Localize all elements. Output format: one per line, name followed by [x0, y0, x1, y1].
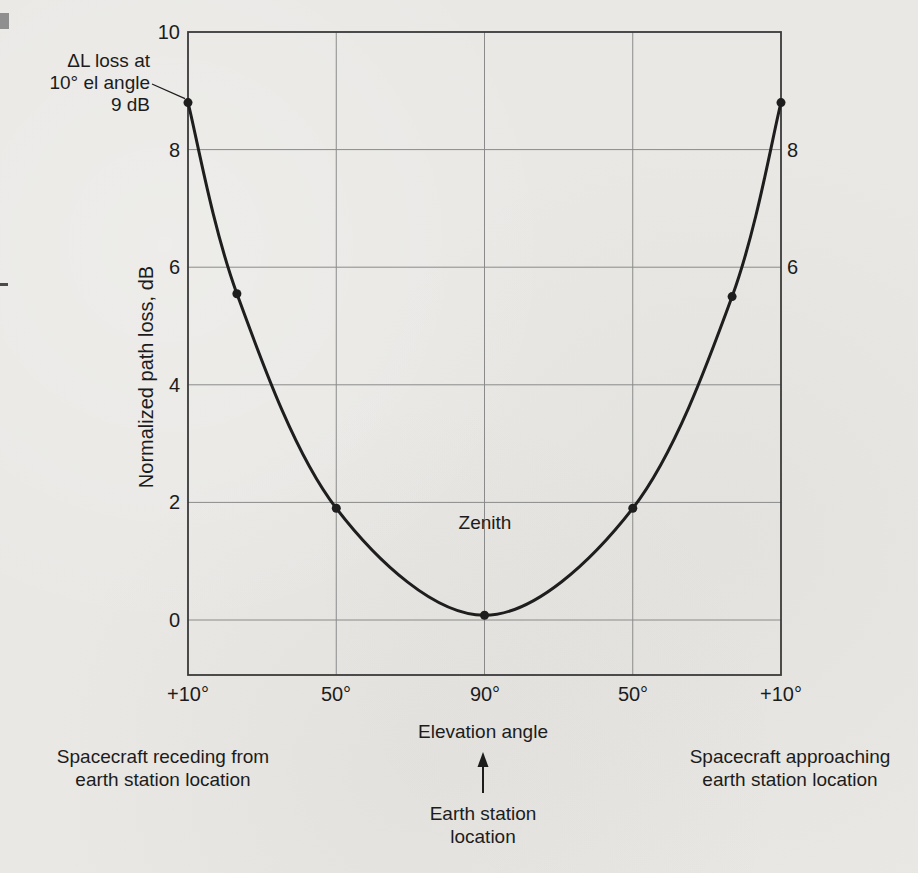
- earth-station-location-label: Earth station location: [383, 802, 583, 848]
- receding-line-2: earth station location: [23, 768, 303, 791]
- data-point-marker: [480, 611, 489, 620]
- scanned-figure-page: ΔL loss at 10° el angle 9 dB Normalized …: [0, 0, 918, 873]
- x-axis-tick-label: +10°: [741, 682, 821, 706]
- spacecraft-receding-label: Spacecraft receding from earth station l…: [23, 745, 303, 791]
- x-axis-tick-label: 50°: [296, 682, 376, 706]
- earth-station-line-1: Earth station: [383, 802, 583, 825]
- delta-l-annotation: ΔL loss at 10° el angle 9 dB: [18, 50, 150, 116]
- x-axis-tick-label: +10°: [148, 682, 228, 706]
- y-axis-tick-label-left: 0: [128, 608, 180, 632]
- data-point-marker: [332, 504, 341, 513]
- earth-station-line-2: location: [383, 825, 583, 848]
- approaching-line-1: Spacecraft approaching: [650, 745, 918, 768]
- zenith-label: Zenith: [425, 512, 545, 534]
- data-point-marker: [777, 98, 786, 107]
- annotation-line-2: 10° el angle: [18, 72, 150, 94]
- y-axis-tick-label-right: 6: [787, 255, 827, 279]
- data-point-marker: [628, 504, 637, 513]
- x-axis-tick-label: 50°: [593, 682, 673, 706]
- annotation-line-3: 9 dB: [18, 94, 150, 116]
- approaching-line-2: earth station location: [650, 768, 918, 791]
- annotation-line-1: ΔL loss at: [18, 50, 150, 72]
- y-axis-tick-label-right: 8: [787, 138, 827, 162]
- spacecraft-approaching-label: Spacecraft approaching earth station loc…: [650, 745, 918, 791]
- data-point-marker: [728, 292, 737, 301]
- data-point-marker: [232, 289, 241, 298]
- y-axis-tick-label-left: 2: [128, 490, 180, 514]
- y-axis-tick-label-left: 6: [128, 255, 180, 279]
- x-axis-title: Elevation angle: [383, 721, 583, 743]
- y-axis-tick-label-left: 10: [128, 20, 180, 44]
- y-axis-tick-label-left: 8: [128, 138, 180, 162]
- y-axis-tick-label-left: 4: [128, 373, 180, 397]
- earth-station-arrow-head: [478, 752, 489, 767]
- receding-line-1: Spacecraft receding from: [23, 745, 303, 768]
- annotation-leader-line: [152, 84, 185, 99]
- x-axis-tick-label: 90°: [445, 682, 525, 706]
- data-point-marker: [184, 98, 193, 107]
